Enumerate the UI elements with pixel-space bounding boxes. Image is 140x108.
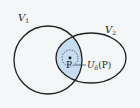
set-v2-label: V2 [105,24,116,36]
venn-diagram: V1 V2 P Uδ(P) [0,0,140,108]
point-p-label: P [66,60,72,70]
diagram-canvas: V1 V2 P Uδ(P) [0,0,140,108]
set-v1-label: V1 [18,12,29,24]
neighborhood-label: Uδ(P) [87,60,111,71]
point-p-dot [69,57,72,60]
